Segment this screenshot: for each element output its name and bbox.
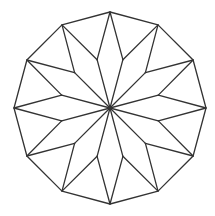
center-spokes bbox=[62, 60, 159, 157]
kite-edge-line bbox=[110, 156, 123, 204]
kite-edge-line bbox=[14, 108, 62, 121]
kite-edge-line bbox=[158, 95, 206, 108]
dodecagon-star-diagram bbox=[0, 0, 215, 216]
kite-edge-line bbox=[97, 156, 110, 204]
kite-edge-line bbox=[97, 12, 110, 60]
kite-edge-line bbox=[110, 12, 123, 60]
kite-edge-line bbox=[158, 108, 206, 121]
kite-edge-line bbox=[14, 95, 62, 108]
